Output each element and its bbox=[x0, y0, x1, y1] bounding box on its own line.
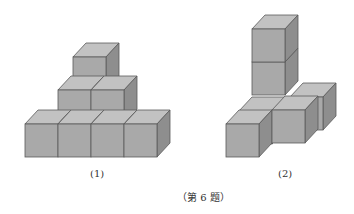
cube bbox=[124, 110, 170, 157]
figure-2 bbox=[226, 15, 336, 157]
caption: （第 6 题） bbox=[177, 189, 230, 204]
figure-1 bbox=[25, 43, 170, 157]
cube bbox=[226, 110, 272, 157]
cube bbox=[252, 15, 298, 62]
cube-figures bbox=[0, 0, 354, 214]
cube bbox=[272, 96, 318, 143]
figure-2-label: (2) bbox=[278, 168, 292, 179]
figure-1-label: (1) bbox=[90, 168, 104, 179]
